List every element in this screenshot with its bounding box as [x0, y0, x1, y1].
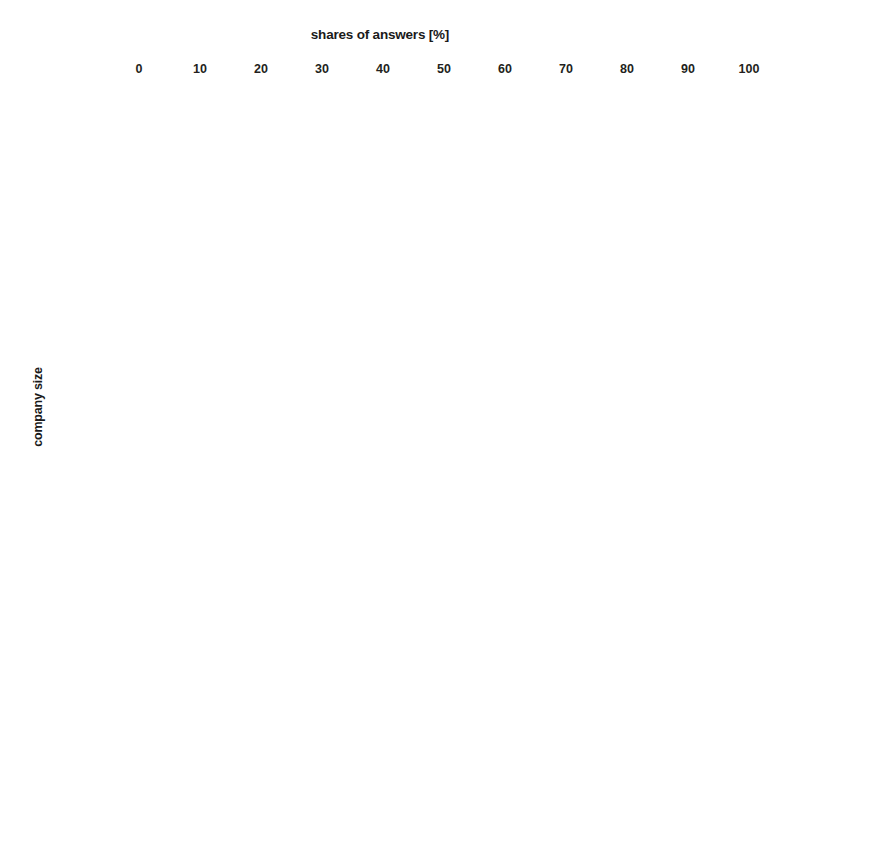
x-tick-label-10: 10	[180, 62, 220, 76]
x-tick-label-50: 50	[424, 62, 464, 76]
x-tick-label-40: 40	[363, 62, 403, 76]
x-tick-label-90: 90	[668, 62, 708, 76]
x-tick-label-0: 0	[119, 62, 159, 76]
x-tick-label-80: 80	[607, 62, 647, 76]
x-tick-label-20: 20	[241, 62, 281, 76]
x-tick-label-100: 100	[729, 62, 769, 76]
x-axis-tick-labels: 0102030405060708090100	[0, 62, 896, 80]
x-tick-label-70: 70	[546, 62, 586, 76]
page-title: shares of answers [%]	[0, 27, 760, 42]
y-axis-title: company size	[31, 347, 45, 467]
x-tick-label-60: 60	[485, 62, 525, 76]
x-tick-label-30: 30	[302, 62, 342, 76]
